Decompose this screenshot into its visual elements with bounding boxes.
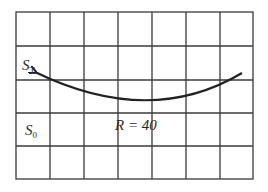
label-s-0: S0: [25, 122, 38, 140]
grid-border: [16, 12, 253, 179]
curved-arrow: [35, 72, 242, 100]
grid-diagram: ST S0 R = 40: [0, 0, 268, 192]
grid: [16, 12, 253, 179]
label-radius: R = 40: [114, 117, 157, 133]
label-s-t: ST: [22, 57, 36, 75]
